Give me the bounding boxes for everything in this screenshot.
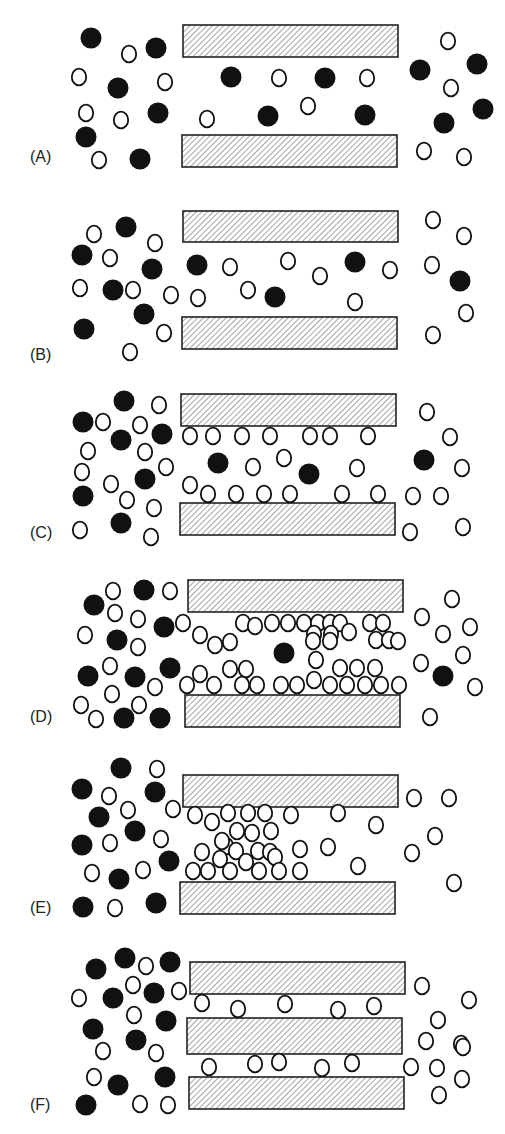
open-particle bbox=[434, 488, 448, 505]
filled-particle bbox=[107, 630, 128, 651]
filled-particle bbox=[315, 68, 336, 89]
filled-particle bbox=[433, 666, 454, 687]
filled-particle bbox=[414, 450, 435, 471]
open-particle bbox=[102, 788, 116, 805]
open-particle bbox=[248, 618, 262, 635]
open-particle bbox=[274, 677, 288, 694]
open-particle bbox=[419, 1033, 433, 1050]
open-particle bbox=[164, 287, 178, 304]
open-particle bbox=[301, 98, 315, 115]
open-particle bbox=[367, 998, 381, 1015]
open-particle bbox=[200, 111, 214, 128]
open-particle bbox=[284, 807, 298, 824]
filled-particle bbox=[76, 1095, 97, 1116]
filled-particle bbox=[410, 60, 431, 81]
open-particle bbox=[335, 486, 349, 503]
open-particle bbox=[75, 464, 89, 481]
open-particle bbox=[193, 666, 207, 683]
filled-particle bbox=[160, 952, 181, 973]
filled-particle bbox=[450, 271, 471, 292]
open-particle bbox=[331, 805, 345, 822]
open-particle bbox=[278, 996, 292, 1013]
open-particle bbox=[371, 486, 385, 503]
open-particle bbox=[368, 660, 382, 677]
open-particle bbox=[92, 152, 106, 169]
open-particle bbox=[235, 428, 249, 445]
filled-particle bbox=[108, 78, 129, 99]
open-particle bbox=[139, 958, 153, 975]
open-particle bbox=[231, 1001, 245, 1018]
filled-particle bbox=[86, 959, 107, 980]
hatched-plate bbox=[190, 962, 405, 994]
open-particle bbox=[230, 823, 244, 840]
open-particle bbox=[195, 995, 209, 1012]
filled-particle bbox=[114, 708, 135, 729]
filled-particle bbox=[355, 105, 376, 126]
open-particle bbox=[73, 280, 87, 297]
open-particle bbox=[348, 294, 362, 311]
open-particle bbox=[87, 1069, 101, 1086]
open-particle bbox=[281, 615, 295, 632]
open-particle bbox=[392, 677, 406, 694]
open-particle bbox=[123, 344, 137, 361]
open-particle bbox=[331, 1002, 345, 1019]
filled-particle bbox=[467, 54, 488, 75]
panel-f: (F) bbox=[30, 948, 476, 1116]
filled-particle bbox=[221, 67, 242, 88]
filled-particle bbox=[150, 708, 171, 729]
open-particle bbox=[245, 825, 259, 842]
open-particle bbox=[72, 69, 86, 86]
open-particle bbox=[436, 626, 450, 643]
panel-label: (C) bbox=[30, 524, 52, 541]
open-particle bbox=[193, 627, 207, 644]
filled-particle bbox=[134, 580, 155, 601]
panel-label: (F) bbox=[30, 1096, 50, 1113]
open-particle bbox=[81, 443, 95, 460]
panel-c: (C) bbox=[30, 391, 470, 546]
hatched-plate bbox=[180, 503, 395, 535]
open-particle bbox=[406, 488, 420, 505]
open-particle bbox=[358, 677, 372, 694]
open-particle bbox=[206, 428, 220, 445]
open-particle bbox=[428, 828, 442, 845]
filled-particle bbox=[78, 666, 99, 687]
filled-particle bbox=[142, 259, 163, 280]
panel-b: (B) bbox=[30, 211, 473, 363]
open-particle bbox=[85, 865, 99, 882]
open-particle bbox=[306, 633, 320, 650]
filled-particle bbox=[108, 1075, 129, 1096]
filled-particle bbox=[155, 1067, 176, 1088]
open-particle bbox=[235, 677, 249, 694]
open-particle bbox=[248, 1056, 262, 1073]
open-particle bbox=[154, 831, 168, 848]
filled-particle bbox=[148, 103, 169, 124]
hatched-plate bbox=[183, 211, 398, 242]
open-particle bbox=[321, 839, 335, 856]
filled-particle bbox=[187, 255, 208, 276]
open-particle bbox=[425, 257, 439, 274]
open-particle bbox=[166, 801, 180, 818]
filled-particle bbox=[111, 430, 132, 451]
open-particle bbox=[426, 212, 440, 229]
open-particle bbox=[405, 845, 419, 862]
open-particle bbox=[158, 74, 172, 91]
filled-particle bbox=[72, 835, 93, 856]
open-particle bbox=[122, 46, 136, 63]
filled-particle bbox=[74, 319, 95, 340]
hatched-plate bbox=[180, 882, 395, 914]
hatched-plate bbox=[189, 1077, 404, 1109]
filled-particle bbox=[130, 149, 151, 170]
open-particle bbox=[432, 1087, 446, 1104]
open-particle bbox=[241, 282, 255, 299]
open-particle bbox=[455, 460, 469, 477]
filled-particle bbox=[146, 893, 167, 914]
filled-particle bbox=[146, 38, 167, 59]
open-particle bbox=[315, 1060, 329, 1077]
open-particle bbox=[265, 615, 279, 632]
open-particle bbox=[307, 672, 321, 689]
open-particle bbox=[431, 1012, 445, 1029]
open-particle bbox=[78, 627, 92, 644]
open-particle bbox=[351, 858, 365, 875]
open-particle bbox=[148, 235, 162, 252]
open-particle bbox=[345, 1055, 359, 1072]
